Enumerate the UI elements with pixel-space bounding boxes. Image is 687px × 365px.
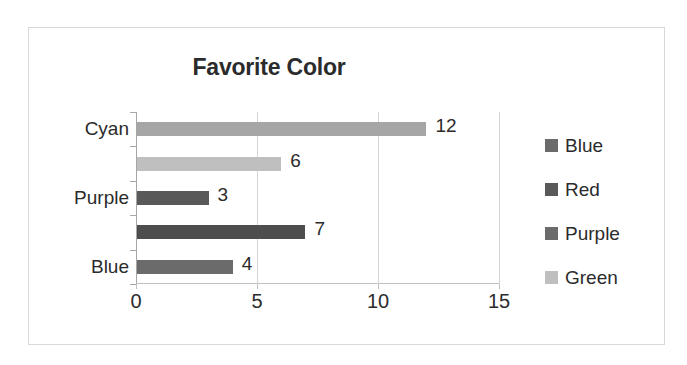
legend-label: Green — [565, 268, 618, 287]
legend-label: Red — [565, 180, 600, 199]
bar-value-label-green: 6 — [290, 154, 301, 168]
category-label-cyan: Cyan — [85, 118, 129, 140]
category-label-blue: Blue — [91, 256, 129, 278]
x-axis-label-5: 5 — [251, 290, 262, 313]
legend-item-blue[interactable]: Blue — [545, 123, 661, 167]
legend-item-red[interactable]: Red — [545, 167, 661, 211]
bar-red[interactable] — [137, 225, 305, 239]
x-tick-10 — [378, 284, 379, 289]
x-axis-label-10: 10 — [367, 290, 389, 313]
bar-cyan[interactable] — [137, 122, 426, 136]
category-label-purple: Purple — [74, 187, 129, 209]
legend-swatch-icon-red — [545, 183, 558, 196]
x-tick-5 — [257, 284, 258, 289]
chart-title: Favorite Color — [29, 54, 509, 81]
plot-area: 126374 — [136, 112, 499, 284]
x-axis-label-0: 0 — [130, 290, 141, 313]
y-tick-0 — [130, 112, 136, 113]
y-tick-5 — [130, 284, 136, 285]
legend-swatch-icon-green — [545, 271, 558, 284]
legend-item-green[interactable]: Green — [545, 255, 661, 299]
bar-purple[interactable] — [137, 191, 209, 205]
legend-item-purple[interactable]: Purple — [545, 211, 661, 255]
x-axis-line — [136, 283, 499, 284]
gridline-10 — [378, 112, 379, 284]
category-axis-labels: CyanPurpleBlue — [29, 112, 129, 284]
legend-swatch-icon-blue — [545, 139, 558, 152]
legend-label: Blue — [565, 136, 603, 155]
chart-legend: BlueRedPurpleGreen — [545, 123, 661, 299]
x-tick-15 — [499, 284, 500, 289]
gridline-15 — [499, 112, 500, 284]
bar-green[interactable] — [137, 157, 281, 171]
bar-value-label-cyan: 12 — [435, 119, 456, 133]
bar-value-label-blue: 4 — [242, 257, 253, 271]
y-tick-2 — [130, 181, 136, 182]
bar-value-label-purple: 3 — [218, 188, 229, 202]
legend-label: Purple — [565, 224, 620, 243]
legend-swatch-icon-purple — [545, 227, 558, 240]
x-axis-label-15: 15 — [488, 290, 510, 313]
bar-blue[interactable] — [137, 260, 233, 274]
y-tick-3 — [130, 215, 136, 216]
x-tick-0 — [136, 284, 137, 289]
y-tick-4 — [130, 250, 136, 251]
chart-frame: Favorite Color CyanPurpleBlue 126374 051… — [28, 27, 665, 345]
value-axis-labels: 051015 — [136, 290, 499, 318]
gridline-5 — [257, 112, 258, 284]
bar-value-label-red: 7 — [314, 222, 325, 236]
y-tick-1 — [130, 146, 136, 147]
